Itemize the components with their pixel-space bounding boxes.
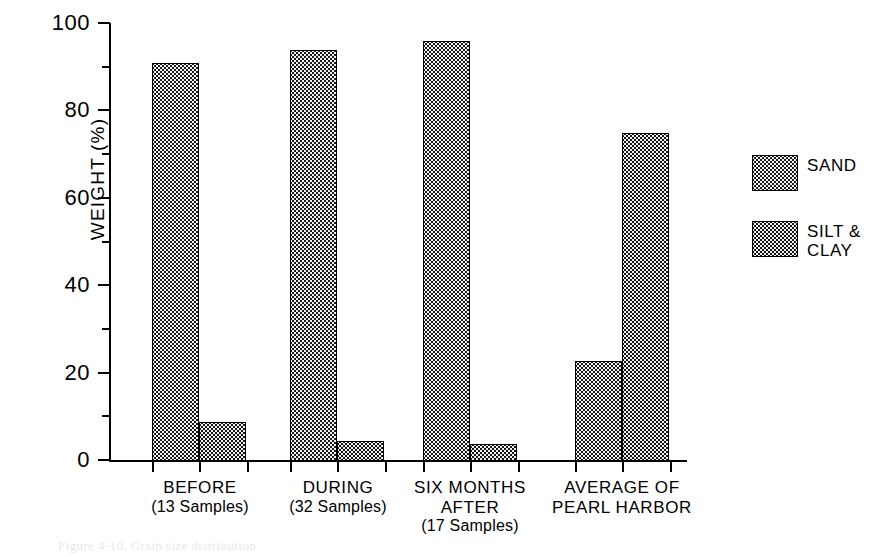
legend-item-sand: SAND [752,155,870,191]
x-tick [199,461,201,472]
bar-sand [152,63,199,461]
y-tick-minor [102,415,110,417]
y-tick-major: 0 [98,459,110,461]
y-tick-minor [102,241,110,243]
x-tick [247,461,249,472]
legend-item-silt-clay: SILT & CLAY [752,221,870,260]
bar-sand [575,361,622,462]
y-tick-major: 100 [98,22,110,24]
legend-label-sand: SAND [807,155,857,175]
x-group-sample-count: (17 Samples) [380,517,560,535]
y-tick-major: 20 [98,372,110,374]
x-tick [518,461,520,472]
plot-area: 020406080100 [110,24,670,461]
legend: SAND SILT & CLAY [752,155,870,290]
bar-sand [290,50,337,461]
y-tick-major: 80 [98,109,110,111]
y-tick-label: 100 [52,12,90,34]
x-group-label: AVERAGE OFPEARL HARBOR [512,478,732,517]
y-tick-minor [102,153,110,155]
y-tick-major: 60 [98,197,110,199]
x-tick [470,461,472,472]
y-tick-major: 40 [98,284,110,286]
bar-silt-clay [337,441,384,461]
bar-silt-clay [199,422,246,461]
x-group-label-line: PEARL HARBOR [512,498,732,518]
y-tick-label: 80 [65,99,90,121]
y-tick-label: 20 [65,362,90,384]
y-tick-minor [102,328,110,330]
legend-swatch-sand [752,155,798,191]
x-tick [152,461,154,472]
x-tick [670,461,672,472]
figure-caption-remnant: Figure 4-10. Grain size distribution [58,538,256,554]
y-tick-label: 0 [77,449,90,471]
bar-sand [423,41,470,461]
figure-root: WEIGHT (%) 020406080100 BEFORE(13 Sample… [0,0,870,556]
bar-silt-clay [470,444,517,461]
bar-silt-clay [622,133,669,461]
x-group-label-line: AVERAGE OF [512,478,732,498]
legend-label-silt-clay: SILT & CLAY [807,221,861,260]
y-tick-minor [102,66,110,68]
y-tick-label: 60 [65,187,90,209]
x-tick [575,461,577,472]
x-tick [290,461,292,472]
legend-swatch-silt-clay [752,221,798,257]
x-tick [423,461,425,472]
x-tick [622,461,624,472]
x-tick [385,461,387,472]
x-tick [337,461,339,472]
y-tick-label: 40 [65,274,90,296]
